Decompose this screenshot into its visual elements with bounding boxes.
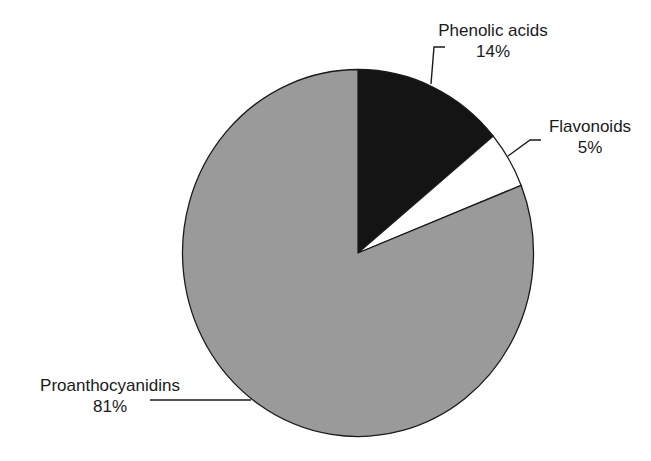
label-proanthocyanidins-percent: 81% (20, 396, 200, 417)
label-proanthocyanidins-name: Proanthocyanidins (40, 376, 180, 395)
label-phenolic-acids-percent: 14% (428, 41, 558, 62)
label-phenolic-acids-name: Phenolic acids (438, 21, 548, 40)
pie-slices (183, 69, 534, 436)
label-flavonoids-percent: 5% (540, 137, 640, 158)
leader-line-flavonoids (508, 140, 541, 156)
label-flavonoids-name: Flavonoids (549, 117, 631, 136)
label-proanthocyanidins: Proanthocyanidins 81% (20, 375, 200, 417)
label-flavonoids: Flavonoids 5% (540, 116, 640, 158)
label-phenolic-acids: Phenolic acids 14% (428, 20, 558, 62)
